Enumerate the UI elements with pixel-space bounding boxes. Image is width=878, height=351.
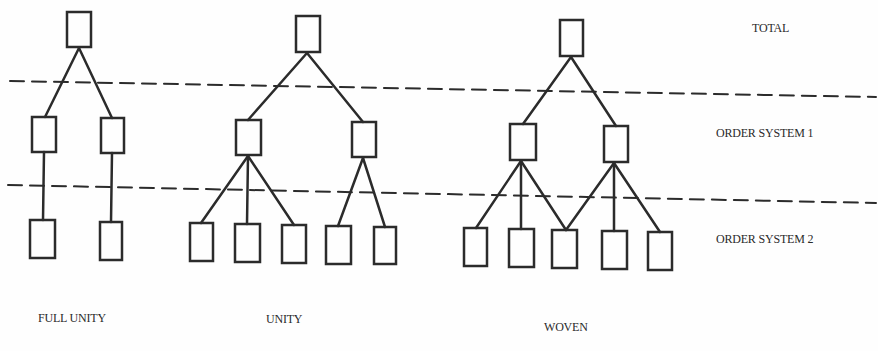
separator-order1-order2 [8,185,876,203]
unity-tree [190,16,396,264]
level-label-order-system-2: ORDER SYSTEM 2 [716,232,813,247]
separator-total-order1 [10,81,876,97]
level-label-total: TOTAL [752,21,789,36]
caption-woven: WOVEN [544,320,588,335]
caption-unity: UNITY [266,312,302,327]
full-unity-tree [30,12,124,260]
woven-tree [464,20,672,270]
hierarchy-diagram: TOTAL ORDER SYSTEM 1 ORDER SYSTEM 2 FULL… [0,0,878,351]
diagram-drawing [0,0,878,351]
caption-full-unity: FULL UNITY [38,311,106,326]
level-label-order-system-1: ORDER SYSTEM 1 [716,126,813,141]
